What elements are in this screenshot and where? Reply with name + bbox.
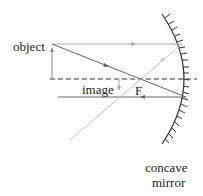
focal-ray-arrow	[104, 63, 111, 67]
object-arrow-head	[50, 47, 54, 52]
mirror-hatching	[165, 14, 189, 143]
mirror-label-line1: concave	[145, 161, 188, 174]
mirror-label-line2: mirror	[152, 176, 185, 189]
focal-point-label: F	[135, 84, 142, 97]
image-label: image	[82, 83, 114, 96]
parallel-ray-arrow	[131, 42, 136, 46]
object-label: object	[13, 40, 45, 53]
image-arrow-head	[117, 86, 121, 91]
